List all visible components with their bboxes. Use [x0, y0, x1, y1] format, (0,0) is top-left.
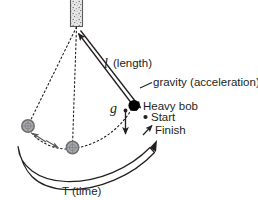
bob-position-bottom — [66, 141, 78, 153]
start-label: Start — [151, 111, 176, 123]
gravity-text-label: gravity (acceleration) — [153, 76, 258, 88]
bob-position-left — [22, 120, 34, 132]
start-dot — [143, 115, 147, 119]
gravity-leader-line — [140, 83, 152, 89]
ceiling-mount-block — [71, 0, 83, 27]
period-label: T (time) — [62, 185, 102, 197]
length-text-label: (length) — [113, 57, 152, 69]
gravity-symbol-label: g — [110, 101, 117, 116]
finish-label: Finish — [155, 124, 186, 136]
pendulum-figure: l (length) gravity (acceleration) g Heav… — [0, 0, 258, 200]
pendulum-diagram-svg: l (length) gravity (acceleration) g Heav… — [0, 0, 258, 200]
dashed-swing-arc — [32, 107, 134, 149]
dashed-string-left — [29, 27, 77, 125]
downward-gravity-arrow — [124, 109, 128, 134]
heavy-bob-filled-circle — [128, 100, 139, 111]
dashed-string-vertical — [73, 27, 77, 146]
length-symbol-label: l — [104, 56, 108, 71]
dashed-string-paths — [29, 27, 134, 149]
finish-arrow — [143, 126, 152, 136]
double-headed-length-arrow — [79, 31, 141, 111]
swing-direction-double-arrow — [33, 134, 58, 148]
period-crescent-arc — [18, 140, 157, 190]
